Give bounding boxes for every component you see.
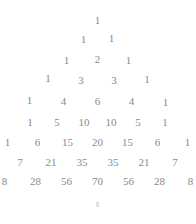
triangle-cell: 1 [139,73,155,85]
triangle-row: 1331 [0,74,195,86]
triangle-cell: 21 [42,156,60,168]
triangle-cell: 1 [105,32,119,44]
triangle-cell: 7 [166,156,184,168]
triangle-cell: 1 [157,116,174,128]
triangle-cell: 1 [158,96,174,108]
triangle-cell: 21 [135,156,153,168]
triangle-cell: 15 [59,136,77,148]
triangle-cell: 4 [124,95,140,107]
triangle-cell: 7 [11,156,29,168]
triangle-cell: 5 [130,116,147,128]
triangle-row: 1615201561 [0,136,195,148]
triangle-cell: 28 [27,175,45,187]
triangle-cell: 1 [59,54,75,66]
triangle-cell: 56 [58,175,76,187]
triangle-cell: 35 [104,156,122,168]
triangle-cell: 35 [73,156,91,168]
triangle-cell: 1 [22,94,38,106]
triangle-cell: 1 [77,33,91,45]
triangle-cell: 20 [89,136,107,148]
triangle-row: 18285670562881 [0,175,195,187]
triangle-cell: 28 [151,175,169,187]
triangle-cell: 1 [121,54,137,66]
triangle-row: 11 [0,33,195,45]
pascals-triangle: 1111211331146411510105116152015611721353… [0,0,195,224]
triangle-cell: 15 [119,136,137,148]
triangle-cell: 3 [106,74,122,86]
triangle-cell: 6 [29,136,47,148]
triangle-cell: 1 [22,116,39,128]
triangle-row: 172135352171 [0,156,195,168]
triangle-cell: 56 [120,175,138,187]
triangle-cell: 10 [76,116,93,128]
triangle-cell: 8 [0,175,14,187]
triangle-cell: 6 [90,95,106,107]
triangle-row: 14641 [0,95,195,107]
bottom-artifact [96,202,99,207]
triangle-row: 15101051 [0,116,195,128]
triangle-cell: 70 [89,175,107,187]
triangle-cell: 3 [73,74,89,86]
triangle-row: 1 [0,14,195,26]
triangle-cell: 1 [40,72,56,84]
triangle-cell: 6 [149,136,167,148]
triangle-cell: 5 [49,116,66,128]
triangle-cell: 1 [0,136,17,148]
triangle-cell: 4 [56,95,72,107]
triangle-row: 121 [0,54,195,66]
triangle-cell: 1 [91,14,105,26]
triangle-cell: 1 [179,136,196,148]
triangle-cell: 2 [90,53,106,65]
triangle-cell: 8 [182,175,196,187]
triangle-cell: 10 [103,116,120,128]
